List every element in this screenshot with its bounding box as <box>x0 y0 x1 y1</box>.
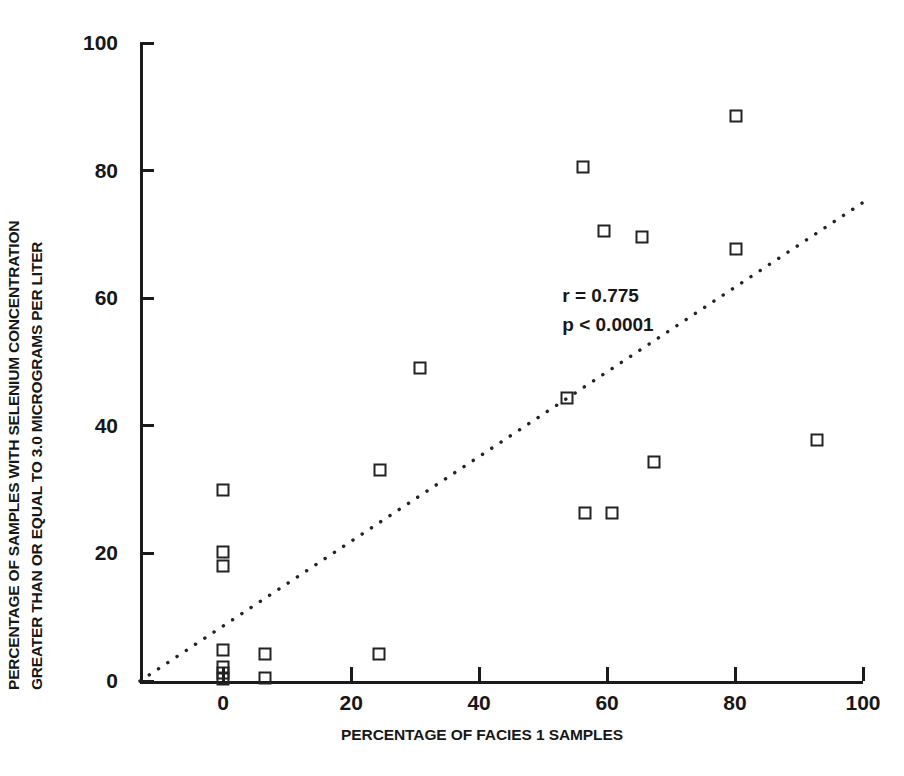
scatter-plot-figure: PERCENTAGE OF SAMPLES WITH SELENIUM CONC… <box>0 0 904 776</box>
data-point-marker <box>414 362 427 375</box>
x-tick-label: 0 <box>217 691 229 715</box>
x-tick-mark <box>734 667 737 681</box>
data-point-marker <box>729 243 742 256</box>
y-tick-mark <box>140 680 154 683</box>
data-point-marker <box>577 161 590 174</box>
x-axis-title: PERCENTAGE OF FACIES 1 SAMPLES <box>0 726 904 744</box>
y-tick-label: 20 <box>95 541 118 565</box>
y-tick-mark <box>140 552 154 555</box>
data-point-marker <box>372 647 385 660</box>
y-tick-mark <box>140 424 154 427</box>
y-axis-title-line-1: PERCENTAGE OF SAMPLES WITH SELENIUM CONC… <box>5 18 23 690</box>
data-point-marker <box>217 483 230 496</box>
y-tick-label: 0 <box>106 669 118 693</box>
data-point-marker <box>217 660 230 673</box>
data-point-marker <box>597 225 610 238</box>
y-tick-label: 60 <box>95 286 118 310</box>
x-tick-mark <box>478 667 481 681</box>
x-tick-label: 100 <box>845 691 880 715</box>
y-tick-label: 100 <box>83 31 118 55</box>
data-point-marker <box>561 391 574 404</box>
y-tick-label: 80 <box>95 159 118 183</box>
data-point-marker <box>258 672 271 685</box>
x-tick-mark <box>350 667 353 681</box>
y-tick-mark <box>140 169 154 172</box>
y-axis-title-line-2: GREATER THAN OR EQUAL TO 3.0 MICROGRAMS … <box>28 18 46 690</box>
x-tick-label: 60 <box>595 691 618 715</box>
x-tick-mark <box>606 667 609 681</box>
data-point-marker <box>729 109 742 122</box>
y-tick-label: 40 <box>95 414 118 438</box>
data-point-marker <box>635 230 648 243</box>
data-point-marker <box>373 464 386 477</box>
x-tick-label: 20 <box>339 691 362 715</box>
y-axis-title: PERCENTAGE OF SAMPLES WITH SELENIUM CONC… <box>0 0 62 700</box>
y-tick-mark <box>140 297 154 300</box>
data-point-marker <box>217 546 230 559</box>
x-tick-label: 80 <box>723 691 746 715</box>
data-point-marker <box>648 455 661 468</box>
data-point-marker <box>217 560 230 573</box>
y-tick-mark <box>140 42 154 45</box>
data-point-marker <box>258 647 271 660</box>
data-point-marker <box>810 434 823 447</box>
data-point-marker <box>578 507 591 520</box>
plot-area: 020406080100 020406080100 r = 0.775p < 0… <box>140 43 863 683</box>
x-tick-label: 40 <box>467 691 490 715</box>
data-point-marker <box>605 507 618 520</box>
data-point-marker <box>217 644 230 657</box>
annotation-text: p < 0.0001 <box>562 312 653 339</box>
x-tick-mark <box>862 667 865 681</box>
annotation-text: r = 0.775 <box>562 283 639 310</box>
trendline <box>140 43 863 684</box>
